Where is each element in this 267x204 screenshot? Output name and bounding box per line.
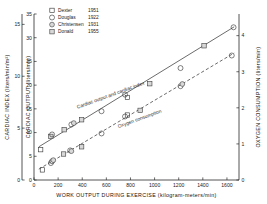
x-tick-label: 600 xyxy=(102,182,111,188)
marker-christensen xyxy=(71,121,76,126)
x-tick-label: 800 xyxy=(126,182,135,188)
oxygen-consumption-tick-label: 0 xyxy=(241,177,244,183)
x-tick-label: 1400 xyxy=(197,182,208,188)
data-point xyxy=(148,82,152,86)
data-point xyxy=(79,145,83,149)
marker-donald xyxy=(62,128,66,132)
marker-donald xyxy=(202,44,206,48)
oxygen-consumption-tick-label: 4 xyxy=(241,32,244,38)
marker-douglas xyxy=(99,109,104,114)
data-point xyxy=(99,109,104,114)
cardiac-index-tick-label: 5 xyxy=(17,125,20,131)
marker-donald xyxy=(61,152,65,156)
data-point xyxy=(51,158,56,163)
cardiac-output-axis-title: CARDIAC OUTPUT (liters/min) xyxy=(25,56,31,139)
oxygen-consumption-tick-label: 1 xyxy=(241,141,244,147)
marker-donald xyxy=(138,108,142,112)
scatter-plot: 02004006008001000120014001600WORK OUTPUT… xyxy=(0,0,267,204)
legend-author: Douglas xyxy=(58,15,76,20)
marker-donald xyxy=(50,30,54,34)
cardiac-output-tick-label: 0 xyxy=(29,177,32,183)
cardiac-output-tick-label: 30 xyxy=(26,35,32,41)
cardiac-index-tick-label: 15 xyxy=(15,21,21,27)
x-axis-title: WORK OUTPUT DURING EXERCISE (kilogram-me… xyxy=(56,192,216,198)
legend-author: Donald xyxy=(58,29,74,34)
x-tick-label: 1000 xyxy=(149,182,160,188)
cardiac-output-tick-label: 5 xyxy=(29,153,32,159)
legend-year: 1955 xyxy=(88,29,99,34)
data-point xyxy=(69,149,74,154)
oxygen-consumption-axis-title: OXYGEN CONSUMPTION (liters/min) xyxy=(255,47,261,148)
marker-christensen xyxy=(180,82,185,87)
data-point xyxy=(202,44,206,48)
legend-marker xyxy=(50,22,55,27)
marker-donald xyxy=(79,118,83,122)
data-point xyxy=(178,66,183,71)
marker-christensen xyxy=(50,22,55,27)
data-point xyxy=(38,147,42,151)
x-tick-label: 0 xyxy=(33,182,36,188)
cardiac-output-tick-label: 35 xyxy=(26,11,32,17)
data-point xyxy=(79,118,83,122)
legend-marker xyxy=(50,15,55,20)
oxygen-consumption-tick-label: 3 xyxy=(241,69,244,75)
data-point xyxy=(62,128,66,132)
marker-douglas xyxy=(50,15,55,20)
legend-year: 1922 xyxy=(88,15,99,20)
data-point xyxy=(180,82,185,87)
x-tick-label: 1200 xyxy=(173,182,184,188)
marker-christensen xyxy=(69,149,74,154)
legend-marker xyxy=(50,30,54,34)
cardiac-index-tick-label: 10 xyxy=(15,73,21,79)
marker-christensen xyxy=(51,158,56,163)
data-point xyxy=(61,152,65,156)
marker-dexter xyxy=(50,8,54,12)
x-tick-label: 400 xyxy=(78,182,87,188)
marker-douglas xyxy=(178,66,183,71)
legend-author: Dexter xyxy=(58,8,73,13)
marker-donald xyxy=(148,82,152,86)
figure-container: 02004006008001000120014001600WORK OUTPUT… xyxy=(0,0,267,204)
marker-dexter xyxy=(38,147,42,151)
marker-donald xyxy=(79,145,83,149)
x-tick-label: 200 xyxy=(54,182,63,188)
oxygen-consumption-tick-label: 2 xyxy=(241,105,244,111)
legend-year: 1931 xyxy=(88,22,99,27)
data-point xyxy=(71,121,76,126)
curve-annotation: Cardiac output and cardiac index xyxy=(76,80,145,109)
cardiac-index-tick-label: 0 xyxy=(17,177,20,183)
data-point xyxy=(138,108,142,112)
x-tick-label: 1600 xyxy=(221,182,232,188)
legend-author: Christensen xyxy=(58,22,84,27)
cardiac-index-axis-title: CARDIAC INDEX (liters/min/m²) xyxy=(4,54,10,140)
legend-year: 1951 xyxy=(88,8,99,13)
legend-marker xyxy=(50,8,54,12)
